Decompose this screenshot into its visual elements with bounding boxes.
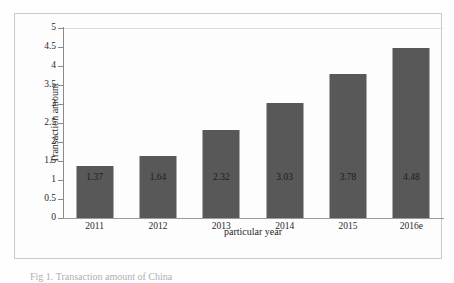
- y-axis-tick-label: 1.5: [44, 156, 56, 166]
- bar[interactable]: [393, 48, 430, 218]
- x-axis-title: particular year: [63, 226, 443, 237]
- bar-value-label: 1.64: [150, 173, 167, 183]
- y-axis-tick-label: 5: [51, 23, 56, 33]
- x-axis-line: [62, 218, 444, 219]
- y-axis-tick-label: 4: [51, 61, 56, 71]
- y-axis-tick-label: 0.5: [44, 194, 56, 204]
- bar-slot: 2.32: [190, 28, 253, 218]
- bar-slot: 3.78: [316, 28, 379, 218]
- y-axis-tick-label: 2.5: [44, 118, 56, 128]
- bar-slot: 4.48: [380, 28, 443, 218]
- bar-value-label: 2.32: [213, 173, 230, 183]
- y-axis-tick-label: 2: [51, 137, 56, 147]
- bar-series: 1.371.642.323.033.784.48: [63, 28, 443, 218]
- bar[interactable]: [139, 156, 176, 218]
- bar-slot: 1.64: [126, 28, 189, 218]
- y-axis-tick-label: 3: [51, 99, 56, 109]
- bar-slot: 1.37: [63, 28, 126, 218]
- chart-frame: Transaction amount 00.511.522.533.544.55…: [14, 13, 442, 259]
- bar-value-label: 3.78: [340, 173, 357, 183]
- bar-value-label: 3.03: [276, 173, 293, 183]
- figure-container: Transaction amount 00.511.522.533.544.55…: [0, 0, 454, 283]
- bar-slot: 3.03: [253, 28, 316, 218]
- bar-value-label: 4.48: [403, 173, 420, 183]
- y-axis-tick-mark: [58, 218, 63, 219]
- figure-caption-text: Fig 1. Transaction amount of China: [30, 272, 430, 282]
- figure-caption: Fig 1. Transaction amount of China: [0, 272, 454, 283]
- y-axis-tick-label: 4.5: [44, 42, 56, 52]
- plot-area: 00.511.522.533.544.55 1.371.642.323.033.…: [63, 28, 443, 218]
- y-axis-tick-label: 3.5: [44, 80, 56, 90]
- bar-value-label: 1.37: [86, 173, 103, 183]
- bar[interactable]: [266, 103, 303, 218]
- bar[interactable]: [329, 74, 366, 218]
- y-axis-tick-label: 0: [51, 213, 56, 223]
- y-axis-tick-label: 1: [51, 175, 56, 185]
